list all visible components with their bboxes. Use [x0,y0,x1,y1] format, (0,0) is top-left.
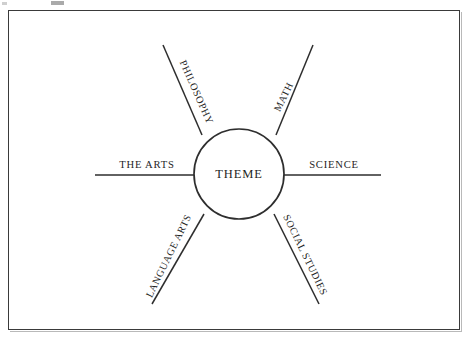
spoke-label-language-arts: LANGUAGE ARTS [144,212,194,299]
diagram-page: THEME PHILOSOPHY MATH THE ARTS SCIENCE L… [0,0,474,346]
theme-hub-label: THEME [215,167,263,181]
spoke-label-science: SCIENCE [309,159,359,170]
theme-web-diagram: THEME PHILOSOPHY MATH THE ARTS SCIENCE L… [0,0,474,346]
spoke-label-the-arts: THE ARTS [119,159,175,170]
spoke-label-social-studies: SOCIAL STUDIES [281,213,330,297]
